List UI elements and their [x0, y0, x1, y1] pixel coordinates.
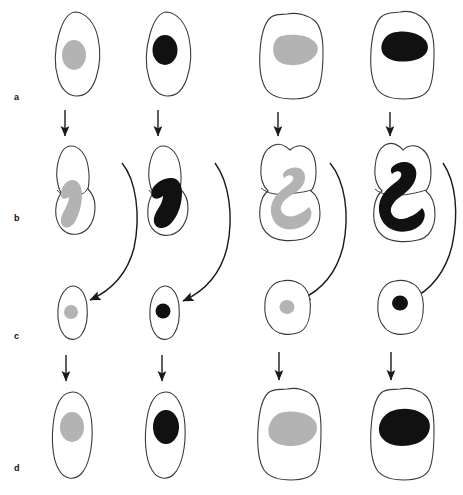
cell-b2 [148, 146, 188, 235]
stage-d-group [52, 388, 434, 480]
nucleus-c2 [156, 304, 171, 319]
cell-c4 [378, 280, 424, 334]
nucleus-d2 [153, 410, 179, 444]
cell-b3 [260, 144, 320, 240]
figure-root: a b c d [0, 0, 463, 495]
nucleus-c4 [392, 296, 408, 311]
arrows-a-to-b [65, 110, 390, 136]
row-label-a: a [14, 93, 19, 102]
stage-b-group [56, 143, 435, 241]
stage-c-group [58, 280, 424, 339]
cell-a2 [146, 12, 190, 96]
nucleus-a2 [153, 35, 178, 65]
cell-d1 [52, 392, 92, 478]
row-label-c: c [14, 332, 19, 341]
cell-d3 [258, 388, 321, 480]
row-label-d: d [14, 464, 20, 473]
cell-b1 [56, 146, 95, 234]
nucleus-c3 [280, 300, 295, 314]
stage-a-group [55, 11, 434, 99]
arrows-c-to-d [66, 352, 391, 381]
cell-diagram-canvas [0, 0, 463, 495]
row-label-b: b [14, 214, 20, 223]
cell-a3 [260, 13, 323, 99]
nucleus-c1 [64, 305, 78, 319]
cell-a4 [371, 11, 434, 99]
cell-a1 [55, 12, 99, 96]
nucleus-a1 [62, 40, 86, 70]
cell-d4 [371, 388, 434, 480]
arrow-b-to-c-1 [90, 163, 137, 300]
cell-c2 [150, 286, 179, 339]
arrow-b-to-c-2 [183, 163, 230, 301]
cell-c1 [58, 286, 87, 339]
cell-d2 [145, 392, 185, 478]
nucleus-d1 [60, 412, 84, 442]
cell-c3 [265, 280, 311, 334]
cell-b4 [374, 143, 435, 241]
